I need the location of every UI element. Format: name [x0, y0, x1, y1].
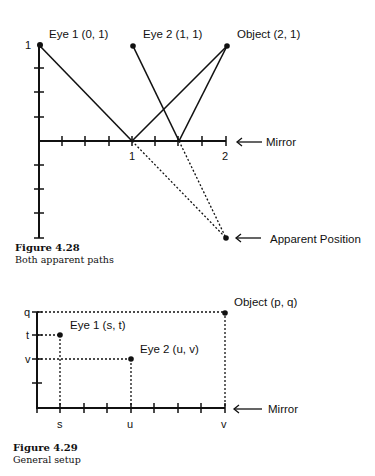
mirror-label: Mirror — [268, 403, 298, 415]
y-tick-label-t: t — [26, 329, 29, 341]
figure-4-29 — [32, 312, 262, 413]
apparent-paths — [132, 141, 226, 238]
object-label: Object (2, 1) — [237, 28, 300, 40]
object-label: Object (p, q) — [234, 296, 297, 308]
apparent-label: Apparent Position — [270, 233, 361, 245]
x-tick-label-2: 2 — [222, 150, 228, 162]
x-tick-label-v: v — [221, 418, 227, 430]
figure-4-29-labels: Object (p, q) Eye 1 (s, t) Eye 2 (u, v) … — [24, 296, 298, 430]
eye2-point — [128, 356, 134, 362]
apparent-point — [223, 235, 229, 241]
figure-4-29-caption: Figure 4.29 General setup — [13, 442, 81, 465]
x-tick-label-1: 1 — [129, 150, 135, 162]
eye1-label: Eye 1 (0, 1) — [49, 28, 109, 40]
mirror-arrow-icon — [234, 405, 262, 413]
y-tick-label-q: q — [24, 306, 30, 318]
figure-number: Figure 4.28 — [15, 242, 114, 254]
eye2-point — [130, 43, 136, 49]
light-paths — [39, 45, 227, 141]
x-tick-label-s: s — [57, 418, 63, 430]
y-tick-label-1: 1 — [25, 39, 31, 51]
figure-caption-text: Both apparent paths — [15, 254, 114, 265]
object-point — [224, 43, 230, 49]
figure-4-28 — [34, 44, 262, 242]
figure-number: Figure 4.29 — [13, 442, 81, 454]
x-tick-label-u: u — [127, 418, 133, 430]
object-point — [222, 310, 228, 316]
mirror-label: Mirror — [266, 136, 296, 148]
eye1-point — [37, 42, 43, 48]
eye1-label: Eye 1 (s, t) — [70, 319, 126, 331]
eye2-label: Eye 2 (1, 1) — [143, 28, 203, 40]
figure-4-28-labels: Eye 1 (0, 1) Eye 2 (1, 1) Object (2, 1) … — [25, 28, 361, 245]
diagram-canvas: Eye 1 (0, 1) Eye 2 (1, 1) Object (2, 1) … — [0, 0, 375, 476]
apparent-arrow-icon — [236, 234, 261, 242]
eye2-label: Eye 2 (u, v) — [140, 343, 199, 355]
y-tick-label-v: v — [25, 353, 31, 365]
mirror-arrow-icon — [237, 138, 262, 146]
figure-caption-text: General setup — [13, 454, 81, 465]
figure-4-28-caption: Figure 4.28 Both apparent paths — [15, 242, 114, 265]
eye1-point — [57, 332, 63, 338]
